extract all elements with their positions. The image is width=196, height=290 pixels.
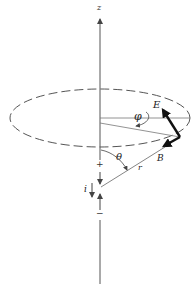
minus-charge-label: − xyxy=(96,208,104,218)
b-vector xyxy=(164,137,180,146)
r-label: r xyxy=(138,163,143,172)
dipole-diagram: z E B φ θ r i + − xyxy=(0,0,196,290)
e-vector-label: E xyxy=(152,99,161,110)
theta-label: θ xyxy=(116,151,122,162)
current-label: i xyxy=(84,184,87,194)
e-vector xyxy=(163,110,180,137)
theta-arc xyxy=(101,150,127,170)
b-vector-label: B xyxy=(156,153,164,163)
phi-label: φ xyxy=(134,110,142,123)
plus-charge-label: + xyxy=(96,159,104,169)
z-axis-label: z xyxy=(96,3,102,12)
